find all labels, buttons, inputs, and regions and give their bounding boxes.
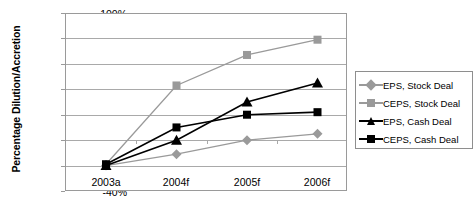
legend-item-ceps-cash-deal[interactable]: CEPS, Cash Deal xyxy=(359,130,469,148)
series-line xyxy=(106,134,318,166)
legend-key-triangle-icon xyxy=(359,115,383,127)
data-point-marker xyxy=(171,135,182,145)
data-point-marker xyxy=(242,135,252,145)
legend-item-eps-cash-deal[interactable]: EPS, Cash Deal xyxy=(359,112,469,130)
legend-item-ceps-stock-deal[interactable]: CEPS, Stock Deal xyxy=(359,94,469,112)
legend-key-square-filled-icon xyxy=(359,133,383,145)
data-point-marker xyxy=(172,149,182,159)
legend-key-diamond-icon xyxy=(359,79,383,91)
series-line xyxy=(106,40,318,165)
series-line xyxy=(106,112,318,164)
legend-label-ceps-cash-deal: CEPS, Cash Deal xyxy=(383,134,459,145)
series-line xyxy=(106,83,318,166)
data-point-marker xyxy=(102,160,110,168)
legend-item-eps-stock-deal[interactable]: EPS, Stock Deal xyxy=(359,76,469,94)
legend: EPS, Stock Deal CEPS, Stock Deal EPS, Ca… xyxy=(355,71,473,149)
data-point-marker xyxy=(312,77,323,87)
data-point-marker xyxy=(243,51,251,59)
data-point-marker xyxy=(313,129,323,139)
data-point-marker xyxy=(314,36,322,44)
data-point-marker xyxy=(173,81,181,89)
legend-label-ceps-stock-deal: CEPS, Stock Deal xyxy=(383,98,460,109)
series-2 xyxy=(101,77,324,170)
data-point-marker xyxy=(243,111,251,119)
series-3 xyxy=(102,108,322,168)
chart-container: Percentage Dilution/Accretion 100% 80% 6… xyxy=(0,0,476,221)
data-point-marker xyxy=(314,108,322,116)
legend-key-square-icon xyxy=(359,97,383,109)
legend-label-eps-stock-deal: EPS, Stock Deal xyxy=(383,80,453,91)
data-point-marker xyxy=(173,123,181,131)
legend-label-eps-cash-deal: EPS, Cash Deal xyxy=(383,116,452,127)
